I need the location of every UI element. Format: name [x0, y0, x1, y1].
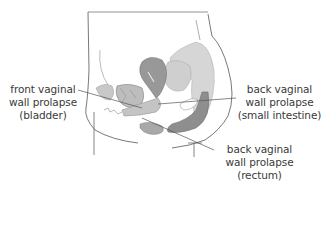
label-line: (rectum): [222, 169, 297, 182]
organs: [96, 42, 214, 134]
uterus: [140, 57, 167, 98]
label-line: back vaginal: [222, 143, 297, 156]
rectum: [168, 92, 209, 133]
label-line: (small intestine): [232, 109, 327, 122]
label-line: wall prolapse: [232, 96, 327, 109]
label-back-vaginal-wall-prolapse-small-intestine: back vaginal wall prolapse (small intest…: [232, 83, 327, 122]
label-line: back vaginal: [232, 83, 327, 96]
label-line: front vaginal: [2, 83, 84, 96]
label-back-vaginal-wall-prolapse-rectum: back vaginal wall prolapse (rectum): [222, 143, 297, 182]
label-line: wall prolapse: [222, 156, 297, 169]
perineum: [140, 122, 163, 134]
small-intestine: [164, 61, 191, 91]
label-line: (bladder): [2, 109, 84, 122]
label-line: wall prolapse: [2, 96, 84, 109]
label-front-vaginal-wall-prolapse-bladder: front vaginal wall prolapse (bladder): [2, 83, 84, 122]
